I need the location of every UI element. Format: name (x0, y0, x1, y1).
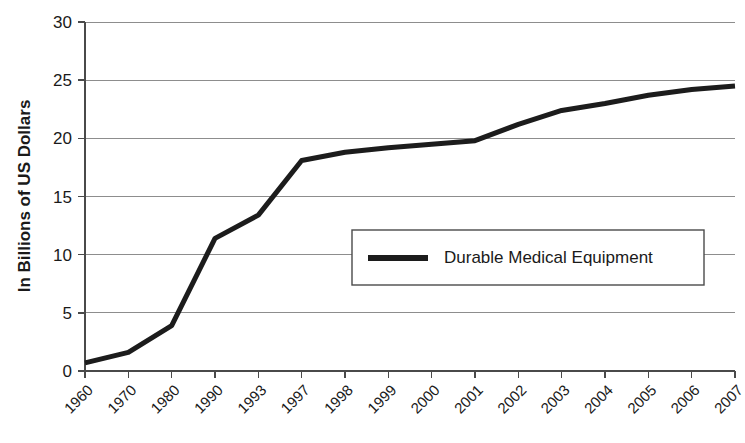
y-tick-label: 0 (63, 362, 72, 381)
x-tick-label: 1999 (364, 381, 400, 417)
x-tick-label: 2003 (537, 381, 573, 417)
x-tick-label: 1960 (61, 381, 97, 417)
x-tick-label: 1980 (147, 381, 183, 417)
x-tick-label: 1990 (191, 381, 227, 417)
x-tick-label: 2005 (624, 381, 660, 417)
legend-label: Durable Medical Equipment (444, 248, 653, 267)
x-tick-label: 1970 (104, 381, 140, 417)
x-tick-label: 2001 (451, 381, 487, 417)
x-tick-label: 2002 (494, 381, 530, 417)
x-axis-ticks: 1960197019801990199319971998199920002001… (61, 371, 745, 417)
y-tick-label: 20 (53, 129, 72, 148)
y-axis-title: In Billions of US Dollars (15, 100, 34, 293)
x-tick-label: 1997 (277, 381, 313, 417)
x-tick-label: 2006 (667, 381, 703, 417)
chart-legend: Durable Medical Equipment (352, 230, 704, 285)
x-tick-label: 2000 (407, 381, 443, 417)
y-axis-ticks: 051015202530 (53, 13, 85, 381)
y-axis-title-group: In Billions of US Dollars (15, 100, 34, 293)
y-tick-label: 5 (63, 304, 72, 323)
y-tick-label: 30 (53, 13, 72, 32)
x-tick-label: 2004 (581, 381, 617, 417)
x-tick-label: 1993 (234, 381, 270, 417)
series-line (85, 86, 735, 363)
x-tick-label: 2007 (711, 381, 745, 417)
line-chart: In Billions of US Dollars 051015202530 1… (0, 0, 745, 443)
y-tick-label: 25 (53, 71, 72, 90)
y-tick-label: 15 (53, 188, 72, 207)
y-tick-label: 10 (53, 246, 72, 265)
chart-container: In Billions of US Dollars 051015202530 1… (0, 0, 745, 443)
x-tick-label: 1998 (321, 381, 357, 417)
data-series-group (85, 86, 735, 363)
